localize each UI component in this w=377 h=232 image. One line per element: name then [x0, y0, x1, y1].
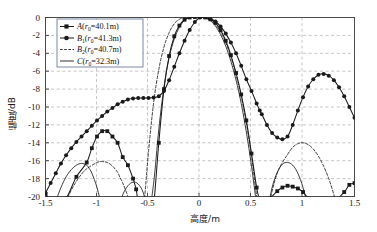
data-point-circle: [316, 73, 320, 77]
data-point-square: [100, 129, 104, 133]
data-point-circle: [49, 181, 53, 185]
data-point-circle: [250, 89, 254, 93]
y-tick-label: -16: [14, 156, 40, 166]
data-point-circle: [100, 114, 104, 118]
data-point-circle: [141, 96, 145, 100]
x-tick-label: 0.5: [236, 198, 266, 208]
data-point-circle: [177, 51, 181, 55]
x-tick-label: -1.5: [31, 198, 61, 208]
data-point-circle: [337, 85, 341, 89]
data-point-square: [291, 185, 295, 189]
data-point-square: [134, 187, 138, 191]
data-point-circle: [327, 74, 331, 78]
x-tick-label: -0.5: [133, 198, 163, 208]
data-point-circle: [244, 77, 248, 81]
data-point-circle: [275, 135, 279, 139]
data-point-square: [126, 163, 130, 167]
data-point-circle: [260, 112, 264, 116]
data-point-circle: [126, 97, 130, 101]
data-point-circle: [157, 94, 161, 98]
data-point-circle: [258, 109, 262, 113]
data-point-square: [286, 184, 290, 188]
data-point-square: [347, 183, 351, 187]
data-point-square: [85, 161, 89, 165]
data-point-circle: [306, 84, 310, 88]
data-point-circle: [255, 101, 259, 105]
x-tick-label: 1: [287, 198, 317, 208]
chart-legend: A(r0=40.1m) B1(r0=41.3m) B2(r0=40.7m) C(…: [57, 19, 143, 67]
data-point-square: [296, 187, 300, 191]
legend-marker-B1-circle: [64, 36, 69, 41]
data-point-square: [105, 129, 109, 133]
data-point-circle: [183, 39, 187, 43]
y-tick-label: -4: [14, 48, 40, 58]
data-point-circle: [301, 95, 305, 99]
data-point-circle: [322, 72, 326, 76]
x-axis-title: 高度/m: [160, 212, 250, 225]
data-point-circle: [347, 105, 351, 109]
data-point-circle: [296, 109, 300, 113]
data-point-circle: [110, 106, 114, 110]
data-point-square: [95, 135, 99, 139]
data-point-square: [116, 141, 120, 145]
data-point-circle: [280, 137, 284, 141]
legend-label-C: C(r0=32.3m): [77, 57, 120, 67]
data-point-circle: [265, 123, 269, 127]
data-point-circle: [59, 161, 63, 165]
data-point-circle: [342, 94, 346, 98]
data-point-circle: [167, 78, 171, 82]
data-point-circle: [239, 64, 243, 68]
y-tick-label: -6: [14, 66, 40, 76]
data-point-circle: [136, 96, 140, 100]
data-point-circle: [291, 123, 295, 127]
x-tick-label: 0: [184, 198, 214, 208]
data-point-square: [75, 175, 79, 179]
data-point-circle: [85, 129, 89, 133]
data-point-square: [281, 186, 285, 190]
y-tick-label: -2: [14, 30, 40, 40]
y-tick-label: -8: [14, 84, 40, 94]
legend-marker-A-square: [64, 24, 68, 28]
y-tick-label: -14: [14, 138, 40, 148]
x-tick-label: 1.5: [340, 198, 370, 208]
data-point-circle: [116, 102, 120, 106]
data-point-circle: [121, 100, 125, 104]
data-point-circle: [64, 153, 68, 157]
data-point-circle: [105, 109, 109, 113]
y-axis-title: 幅度/dB: [5, 84, 17, 144]
data-point-circle: [332, 78, 336, 82]
data-point-square: [90, 146, 94, 150]
y-tick-label: 0: [14, 13, 40, 23]
data-point-circle: [90, 124, 94, 128]
data-point-circle: [229, 41, 233, 45]
data-point-circle: [80, 135, 84, 139]
data-point-circle: [286, 135, 290, 139]
data-point-square: [342, 190, 346, 194]
data-point-circle: [152, 96, 156, 100]
data-point-square: [131, 177, 135, 181]
data-point-circle: [74, 140, 78, 144]
data-point-circle: [54, 171, 58, 175]
data-point-circle: [193, 20, 197, 24]
data-point-circle: [131, 97, 135, 101]
data-point-circle: [224, 32, 228, 36]
data-point-circle: [172, 65, 176, 69]
data-point-circle: [311, 77, 315, 81]
legend-label-A: A(r0=40.1m): [76, 22, 119, 32]
data-point-circle: [147, 96, 151, 100]
data-point-circle: [95, 118, 99, 122]
data-point-circle: [270, 131, 274, 135]
data-point-circle: [219, 24, 223, 28]
data-point-square: [275, 189, 279, 193]
data-point-square: [111, 135, 115, 139]
data-point-circle: [188, 28, 192, 32]
x-tick-label: -1: [82, 198, 112, 208]
data-point-circle: [234, 51, 238, 55]
data-point-circle: [69, 146, 73, 150]
data-point-square: [121, 155, 125, 159]
y-tick-label: -18: [14, 174, 40, 184]
